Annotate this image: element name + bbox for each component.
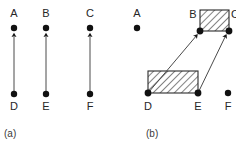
- node-label-B: B: [186, 9, 200, 20]
- node-dot-F: [225, 90, 231, 96]
- node-dot-C: [226, 28, 233, 35]
- panel-a-nodes: [11, 25, 93, 97]
- node-label-F: F: [221, 101, 235, 112]
- node-dot-D: [11, 91, 17, 97]
- hatched-region-BC: [200, 10, 229, 31]
- node-dot-E: [43, 91, 49, 97]
- panel-b-regions: [148, 10, 229, 93]
- panel-a: A B C D E F (a): [0, 0, 118, 144]
- hatched-region-DE: [148, 71, 198, 93]
- node-label-E: E: [39, 101, 53, 112]
- panel-b-graphics: [118, 0, 236, 144]
- node-label-D: D: [7, 101, 21, 112]
- node-label-B: B: [39, 8, 53, 19]
- node-label-A: A: [130, 8, 144, 19]
- node-dot-A: [11, 25, 17, 31]
- node-dot-F: [87, 91, 93, 97]
- arrow-E-C: [198, 35, 226, 93]
- node-dot-B: [43, 25, 49, 31]
- panel-b: A B C D E F (b): [118, 0, 236, 144]
- node-label-A: A: [7, 8, 21, 19]
- node-dot-C: [87, 25, 93, 31]
- node-label-E: E: [191, 101, 205, 112]
- node-label-C: C: [228, 9, 236, 20]
- panel-a-graphics: [0, 0, 118, 144]
- figure-container: A B C D E F (a): [0, 0, 236, 144]
- panel-caption-a: (a): [4, 129, 16, 139]
- node-label-F: F: [83, 101, 97, 112]
- node-label-C: C: [83, 8, 97, 19]
- node-label-D: D: [141, 101, 155, 112]
- node-dot-A: [134, 25, 140, 31]
- node-dot-E: [195, 90, 202, 97]
- panel-a-edges: [14, 34, 90, 91]
- panel-caption-b: (b): [146, 129, 158, 139]
- node-dot-D: [145, 90, 152, 97]
- node-dot-B: [197, 28, 204, 35]
